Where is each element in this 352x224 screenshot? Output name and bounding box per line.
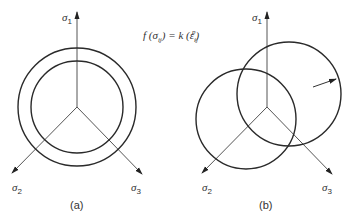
caption-a: (a) (70, 200, 83, 211)
diagram-b (196, 12, 341, 174)
label-sigma3-a: σ3 (131, 182, 141, 196)
label-sigma2-a: σ2 (12, 182, 22, 196)
hardening-formula: f (σij) = k (εijp) (143, 29, 199, 44)
label-sigma2-b: σ2 (202, 182, 212, 196)
label-sigma1-b: σ1 (252, 12, 262, 26)
label-sigma1-a: σ1 (62, 12, 72, 26)
label-sigma3-b: σ3 (322, 182, 332, 196)
caption-b: (b) (259, 200, 272, 211)
axis-sigma3-b (267, 107, 332, 174)
diagram-a (12, 12, 142, 174)
translation-arrow (313, 79, 336, 87)
initial-yield-surface-b (196, 69, 296, 169)
axis-sigma2-b (202, 107, 267, 173)
